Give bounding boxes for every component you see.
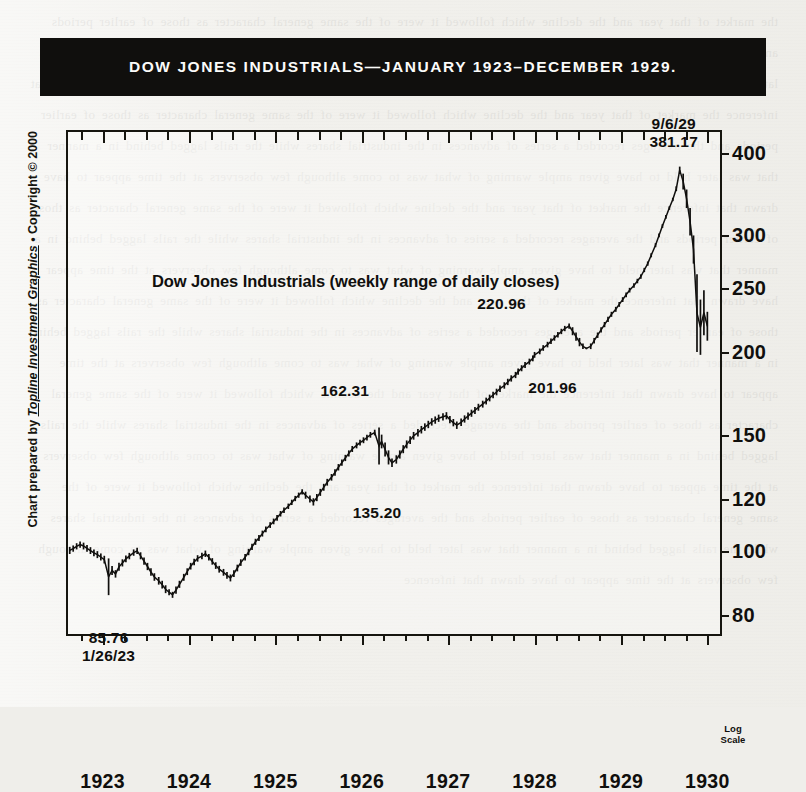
banner-title: DOW JONES INDUSTRIALS—JANUARY 1923–DECEM…: [40, 58, 766, 76]
annotation-low-1923: 85.761/26/23: [82, 629, 135, 665]
top-axis-tick: [103, 132, 105, 143]
top-axis-tick: [448, 132, 450, 143]
x-axis-label: 1930: [685, 770, 730, 792]
top-axis-tick: [297, 132, 299, 140]
x-axis-minor-tick: [470, 634, 472, 641]
x-axis-tick: [275, 634, 277, 645]
top-axis-tick: [470, 132, 472, 140]
annotation-line: 220.96: [477, 295, 526, 313]
chart-credit: Chart prepared by Topline Investment Gra…: [26, 131, 40, 731]
annotation-line: 162.31: [320, 382, 369, 400]
x-axis-label: 1928: [512, 770, 557, 792]
annotation-line: 85.76: [82, 629, 135, 647]
x-axis-tick: [707, 634, 709, 645]
annotation-low-1928: 201.96: [528, 379, 577, 397]
top-axis-tick: [319, 132, 321, 140]
price-series-plot: [68, 132, 716, 630]
top-axis-tick: [211, 132, 213, 140]
top-axis-tick: [254, 132, 256, 140]
x-axis-minor-tick: [578, 634, 580, 641]
annotation-line: 9/6/29: [649, 115, 698, 133]
y-axis-label: 250: [732, 276, 766, 299]
y-axis-tick: [720, 615, 729, 617]
credit-company: Topline Investment Graphics: [26, 245, 40, 416]
y-axis-label: 100: [732, 540, 766, 563]
x-axis-tick: [189, 634, 191, 645]
top-axis-tick: [81, 132, 83, 140]
y-axis-label: 120: [732, 487, 766, 510]
top-axis-tick: [707, 132, 709, 143]
x-axis-minor-tick: [146, 634, 148, 641]
top-axis-tick: [275, 132, 277, 143]
annotation-line: 381.17: [649, 133, 698, 151]
y-axis-tick: [720, 153, 729, 155]
top-axis-tick: [232, 132, 234, 140]
top-axis-tick: [643, 132, 645, 140]
x-axis-tick: [621, 634, 623, 645]
x-axis-minor-tick: [383, 634, 385, 641]
x-axis-minor-tick: [297, 634, 299, 641]
y-axis-label: 150: [732, 423, 766, 446]
x-axis-minor-tick: [405, 634, 407, 641]
top-axis-tick: [513, 132, 515, 140]
x-axis-label: 1925: [253, 770, 298, 792]
y-axis-tick: [720, 352, 729, 354]
x-axis-tick: [362, 634, 364, 645]
annotation-high-1928: 220.96: [477, 295, 526, 313]
top-axis-tick: [599, 132, 601, 140]
x-axis-label: 1926: [339, 770, 384, 792]
annotation-line: 1/26/23: [82, 647, 135, 665]
x-axis-minor-tick: [599, 634, 601, 641]
x-axis-label: 1929: [599, 770, 644, 792]
credit-prefix: Chart prepared by: [26, 416, 40, 527]
annotation-high-1925: 162.31: [320, 382, 369, 400]
x-axis-minor-tick: [686, 634, 688, 641]
top-axis-tick: [556, 132, 558, 140]
log-scale-line1: Log: [708, 724, 758, 735]
x-axis-minor-tick: [254, 634, 256, 641]
chart-figure: Dow Jones Industrials (weekly range of d…: [66, 130, 722, 636]
x-axis-tick: [535, 634, 537, 645]
y-axis-tick: [720, 551, 729, 553]
x-axis-minor-tick: [513, 634, 515, 641]
y-axis-tick: [720, 235, 729, 237]
x-axis-minor-tick: [167, 634, 169, 641]
y-axis-tick: [720, 435, 729, 437]
top-axis-tick: [383, 132, 385, 140]
top-axis-tick: [189, 132, 191, 143]
log-scale-note: Log Scale: [708, 724, 758, 745]
top-axis-tick: [124, 132, 126, 140]
top-axis-tick: [167, 132, 169, 140]
annotation-low-1926: 135.20: [353, 504, 402, 522]
x-axis-minor-tick: [643, 634, 645, 641]
annotation-peak-1929: 9/6/29381.17: [649, 115, 698, 151]
x-axis-minor-tick: [211, 634, 213, 641]
chart-subtitle: Dow Jones Industrials (weekly range of d…: [152, 272, 559, 291]
x-axis-minor-tick: [232, 634, 234, 641]
x-axis-label: 1924: [167, 770, 212, 792]
top-axis-tick: [427, 132, 429, 140]
log-scale-line2: Scale: [708, 735, 758, 746]
top-axis-tick: [362, 132, 364, 143]
y-axis-label: 80: [732, 604, 755, 627]
top-axis-tick: [491, 132, 493, 140]
x-axis-label: 1927: [426, 770, 471, 792]
x-axis-minor-tick: [491, 634, 493, 641]
x-axis-minor-tick: [340, 634, 342, 641]
title-banner: DOW JONES INDUSTRIALS—JANUARY 1923–DECEM…: [40, 38, 766, 96]
y-axis-label: 400: [732, 141, 766, 164]
x-axis-minor-tick: [427, 634, 429, 641]
top-axis-tick: [340, 132, 342, 140]
x-axis-label: 1923: [80, 770, 125, 792]
y-axis-label: 300: [732, 224, 766, 247]
x-axis-minor-tick: [319, 634, 321, 641]
y-axis-tick: [720, 288, 729, 290]
x-axis-minor-tick: [664, 634, 666, 641]
x-axis-tick: [448, 634, 450, 645]
top-axis-tick: [146, 132, 148, 140]
y-axis-label: 200: [732, 340, 766, 363]
x-axis-minor-tick: [556, 634, 558, 641]
series-dow-jones-industrials: [70, 167, 708, 598]
annotation-line: 135.20: [353, 504, 402, 522]
top-axis-tick: [535, 132, 537, 143]
